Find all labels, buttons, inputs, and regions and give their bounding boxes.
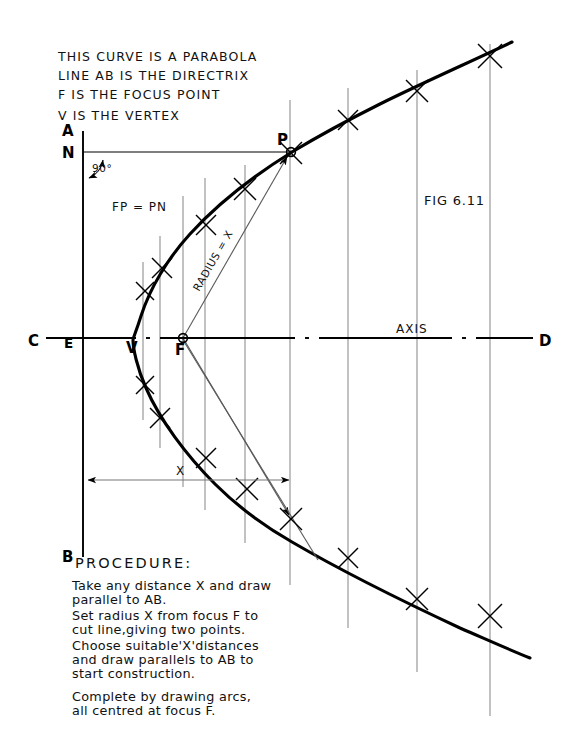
procedure-heading: PROCEDURE:: [75, 555, 192, 571]
label-point-d: D: [539, 332, 551, 350]
label-fp-equals-pn: FP = PN: [112, 200, 167, 214]
procedure-step-9: all centred at focus F.: [72, 703, 216, 718]
label-point-c: C: [28, 332, 39, 350]
procedure-step-1: Take any distance X and draw: [71, 578, 271, 593]
procedure-step-5: Choose suitable'X'distances: [72, 638, 259, 653]
radius-line-f-to-p: [183, 157, 287, 338]
label-dimension-x: X: [176, 464, 185, 478]
note-line-1: THIS CURVE IS A PARABOLA: [57, 49, 257, 64]
label-point-p: P: [277, 131, 288, 149]
parabola-curve: [133, 42, 530, 658]
drawing-sheet: THIS CURVE IS A PARABOLA LINE AB IS THE …: [0, 0, 569, 754]
label-figure-id: FIG 6.11: [424, 193, 485, 208]
radius-line-f-extra: [183, 340, 318, 560]
note-line-3: F IS THE FOCUS POINT: [58, 87, 221, 102]
note-line-4: V IS THE VERTEX: [58, 108, 180, 123]
procedure-step-8: Complete by drawing arcs,: [72, 689, 251, 704]
label-right-angle: 90°: [92, 162, 112, 174]
label-axis: AXIS: [396, 322, 428, 336]
note-line-2: LINE AB IS THE DIRECTRIX: [58, 68, 249, 83]
label-point-f: F: [175, 341, 185, 359]
intersection-ticks-group: [136, 44, 502, 628]
label-point-v: V: [126, 339, 138, 357]
procedure-step-3: Set radius X from focus F to: [72, 608, 258, 623]
label-point-a: A: [62, 122, 74, 140]
parabola-construction-drawing: THIS CURVE IS A PARABOLA LINE AB IS THE …: [0, 0, 569, 754]
label-point-b: B: [62, 548, 73, 566]
procedure-step-6: and draw parallels to AB to: [72, 652, 254, 667]
procedure-step-4: cut line,giving two points.: [72, 622, 245, 637]
radius-lines-group: [183, 157, 318, 560]
label-point-n: N: [62, 144, 75, 162]
label-point-e: E: [64, 335, 73, 351]
procedure-step-2: parallel to AB.: [72, 592, 167, 607]
procedure-step-7: start construction.: [72, 666, 195, 681]
